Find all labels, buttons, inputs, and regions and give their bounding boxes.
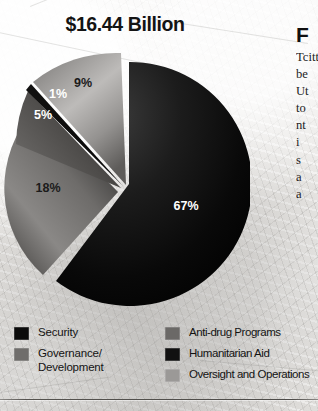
legend-swatch-anti-drug-programs <box>165 327 180 340</box>
legend-swatch-oversight-and-operations <box>165 369 180 382</box>
legend-item-humanitarian-aid[interactable]: Humanitarian Aid <box>165 347 317 361</box>
legend-item-oversight-and-operations[interactable]: Oversight and Operations <box>165 368 317 382</box>
legend-label-governance-development: Governance/Development <box>38 347 104 374</box>
report-page-background: $16.44 Billion <box>0 0 318 411</box>
chart-title: $16.44 Billion <box>0 13 250 36</box>
legend-column-left: Security Governance/Development <box>14 326 164 381</box>
legend-swatch-security <box>14 327 29 340</box>
legend-label-oversight-and-operations: Oversight and Operations <box>189 368 309 382</box>
legend-item-anti-drug-programs[interactable]: Anti-drug Programs <box>165 326 317 340</box>
legend-label-humanitarian-aid: Humanitarian Aid <box>189 347 269 361</box>
legend-item-security[interactable]: Security <box>14 326 164 340</box>
article-body-text: TcittetibeUttontisaa <box>296 49 318 203</box>
legend-swatch-humanitarian-aid <box>165 348 180 361</box>
chart-legend: Security Governance/Development Anti-dru… <box>0 326 318 400</box>
article-side-column: F TcittetibeUttontisaa <box>296 24 318 324</box>
legend-swatch-governance-development <box>14 348 29 361</box>
legend-label-security: Security <box>38 326 78 340</box>
pie-chart: 67% 18% 5% 1% 9% <box>0 40 250 325</box>
legend-column-right: Anti-drug Programs Humanitarian Aid Over… <box>165 326 317 389</box>
footer-divider-highlight <box>0 400 318 401</box>
legend-item-governance-development[interactable]: Governance/Development <box>14 347 164 374</box>
article-heading: F <box>296 24 318 45</box>
pie-chart-svg: 67% 18% 5% 1% 9% <box>0 40 250 325</box>
legend-label-anti-drug-programs: Anti-drug Programs <box>189 326 281 340</box>
paper-crease <box>30 0 142 7</box>
